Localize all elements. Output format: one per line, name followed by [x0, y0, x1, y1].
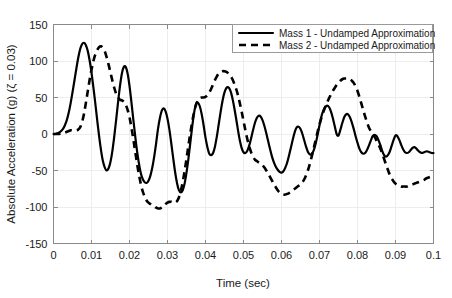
y-tick-label: 100 [29, 55, 47, 67]
legend-entry-label-1: Mass 1 - Undamped Approximation [279, 28, 435, 39]
x-tick-label: 0.04 [195, 249, 216, 261]
legend[interactable]: Mass 1 - Undamped Approximation Mass 2 -… [233, 25, 436, 53]
y-tick-label: -100 [25, 201, 47, 213]
x-tick-label: 0.01 [81, 249, 102, 261]
x-tick-label: 0.06 [271, 249, 292, 261]
legend-entry-label-2: Mass 2 - Undamped Approximation [279, 40, 435, 51]
chart-figure: -150-100-50050100150 00.010.020.030.040.… [0, 0, 452, 298]
x-tick-label: 0.07 [309, 249, 330, 261]
x-tick-label: 0.05 [233, 249, 254, 261]
x-axis-title: Time (sec) [216, 277, 270, 289]
y-tick-label: 150 [29, 19, 47, 31]
x-tick-label: 0.08 [347, 249, 368, 261]
x-tick-label: 0.1 [426, 249, 441, 261]
y-tick-label: -50 [32, 165, 48, 177]
grid-lines [54, 25, 434, 244]
y-axis-title: Absolute Acceleration (g) (ζ = 0.03) [5, 44, 17, 223]
y-tick-label: 0 [41, 128, 47, 140]
plot-canvas: -150-100-50050100150 00.010.020.030.040.… [0, 0, 452, 298]
y-tick-label: 50 [35, 92, 47, 104]
x-axis-ticks: 00.010.020.030.040.050.060.070.080.090.1 [50, 25, 441, 261]
x-tick-label: 0.03 [157, 249, 178, 261]
x-tick-label: 0.02 [119, 249, 140, 261]
y-tick-label: -150 [25, 238, 47, 250]
x-tick-label: 0 [50, 249, 56, 261]
x-tick-label: 0.09 [385, 249, 406, 261]
